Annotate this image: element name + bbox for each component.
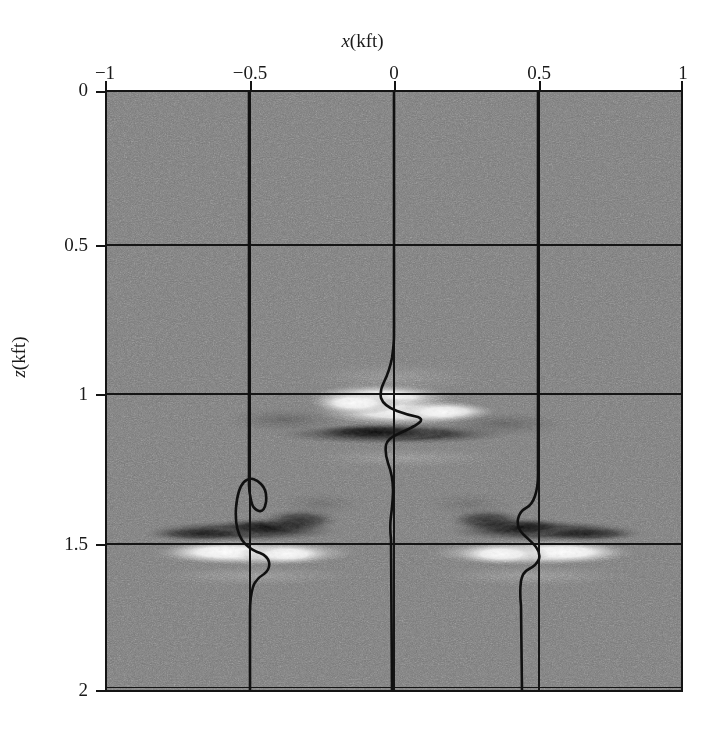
- z-tick-label-1: 1: [0, 383, 88, 405]
- x-tick-mark--0-5: [250, 81, 252, 90]
- gridline-x-0-5: [538, 90, 540, 692]
- gridline-z-0-5: [105, 244, 683, 246]
- x-tick-mark-0: [394, 81, 396, 90]
- z-tick-label-0: 0: [0, 79, 88, 101]
- gridline-x-0: [393, 90, 395, 692]
- gridline-z-1: [105, 393, 683, 395]
- seismic-image-panel: [105, 90, 683, 692]
- z-tick-label-2: 2: [0, 679, 88, 701]
- gridline-z-1-5: [105, 543, 683, 545]
- x-axis-title-variable: x: [341, 30, 349, 51]
- gridline-x--0-5: [249, 90, 251, 692]
- x-tick-mark-0-5: [539, 81, 541, 90]
- x-tick-label-1: 1: [678, 62, 688, 84]
- z-tick-mark-1: [96, 394, 105, 396]
- seismic-figure: x(kft) z(kft) −1 −0.5 0 0.5 1 0 0.5 1 1.…: [0, 0, 725, 730]
- z-tick-mark-2: [96, 690, 105, 692]
- x-tick-mark-1: [681, 81, 683, 90]
- z-tick-mark-1-5: [96, 544, 105, 546]
- z-axis-title-variable: z: [8, 370, 29, 377]
- z-tick-mark-0: [96, 91, 105, 93]
- z-tick-mark-0-5: [96, 245, 105, 247]
- x-axis-title: x(kft): [0, 30, 725, 52]
- z-axis-title-units: (kft): [8, 336, 29, 370]
- x-tick-mark--1: [105, 81, 107, 90]
- x-axis-title-units: (kft): [350, 30, 384, 51]
- z-tick-label-1-5: 1.5: [0, 533, 88, 555]
- z-tick-label-0-5: 0.5: [0, 234, 88, 256]
